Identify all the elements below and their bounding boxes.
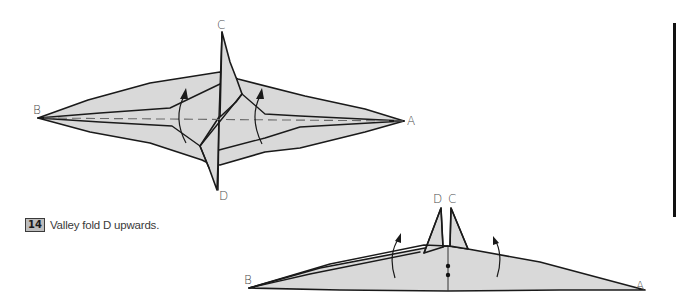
label-b-top: B bbox=[33, 103, 41, 117]
step-number-badge: 14 bbox=[25, 218, 45, 232]
label-b-bottom: B bbox=[244, 273, 252, 287]
label-c-bottom: C bbox=[448, 192, 456, 206]
step-text: Valley fold D upwards. bbox=[50, 219, 159, 231]
step-instruction: 14 Valley fold D upwards. bbox=[25, 218, 159, 232]
origami-diagram: B A C D B A D C bbox=[0, 0, 676, 299]
label-a-bottom: A bbox=[636, 279, 644, 293]
label-a-top: A bbox=[407, 114, 415, 128]
label-d-top: D bbox=[219, 189, 228, 203]
dot-mark-lower bbox=[446, 273, 450, 277]
label-c-top: C bbox=[217, 18, 225, 32]
dot-mark-upper bbox=[446, 264, 450, 268]
bottom-figure-body bbox=[249, 246, 645, 291]
label-d-bottom: D bbox=[433, 192, 442, 206]
bottom-figure: B A D C bbox=[244, 192, 645, 293]
top-figure: B A C D bbox=[33, 18, 415, 203]
